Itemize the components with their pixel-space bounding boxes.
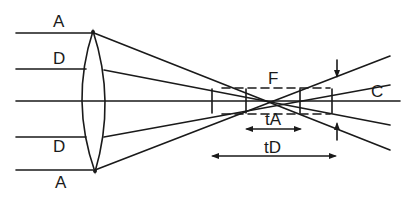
optics-diagram: A D D A F C tA tD: [0, 0, 408, 201]
incoming-rays: [16, 33, 400, 170]
label-ray-bottom-outer: A: [55, 173, 67, 192]
label-focus: F: [268, 69, 278, 88]
label-ray-bottom-inner: D: [53, 137, 65, 156]
label-circle-of-confusion: C: [371, 82, 383, 101]
label-ray-top-outer: A: [53, 12, 65, 31]
label-depth-A: tA: [265, 110, 282, 129]
label-ray-top-inner: D: [53, 49, 65, 68]
inner-rays-D: [104, 70, 390, 137]
label-depth-D: tD: [264, 138, 281, 157]
